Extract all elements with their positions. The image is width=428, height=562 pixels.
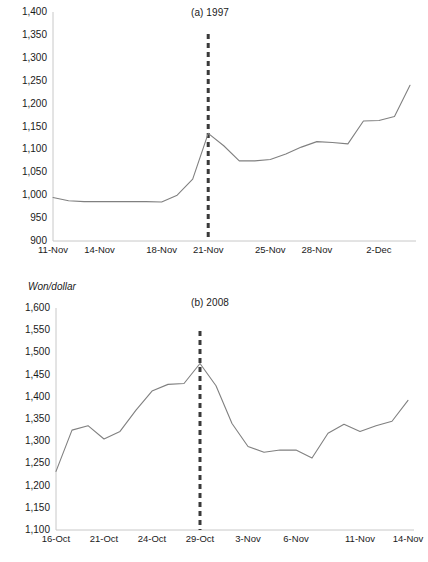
chart-panel-1997: (a) 1997 1,4001,3501,3001,2501,2001,1501…: [0, 0, 420, 282]
y-axis-tick-label: 1,050: [3, 167, 47, 177]
x-axis-tick-label: 2-Dec: [349, 245, 409, 255]
y-axis-tick-label: 1,200: [6, 481, 50, 491]
y-axis-tick-label: 1,400: [3, 7, 47, 17]
y-axis-tick-label: 1,400: [6, 392, 50, 402]
plot-area-1997: [0, 0, 420, 282]
y-axis-tick-label: 1,550: [6, 325, 50, 335]
y-axis-tick-label: 1,000: [3, 190, 47, 200]
y-axis-tick-label: 1,250: [3, 76, 47, 86]
data-series-line: [56, 364, 408, 472]
y-axis-tick-label: 950: [3, 213, 47, 223]
y-axis-tick-label: 1,350: [3, 30, 47, 40]
x-axis-tick-label: 6-Nov: [266, 534, 326, 544]
y-axis-tick-label: 1,100: [3, 144, 47, 154]
x-axis-tick-label: 14-Nov: [70, 245, 130, 255]
y-axis-tick-label: 1,250: [6, 458, 50, 468]
y-axis-tick-label: 1,300: [6, 436, 50, 446]
y-axis-tick-label: 1,450: [6, 370, 50, 380]
y-axis-tick-label: 1,500: [6, 347, 50, 357]
plot-area-2008: [0, 280, 420, 562]
x-axis-tick-label: 28-Nov: [287, 245, 347, 255]
y-axis-tick-label: 1,150: [3, 122, 47, 132]
data-series-line: [53, 85, 410, 202]
x-axis-tick-label: 21-Nov: [178, 245, 238, 255]
y-axis-tick-label: 1,350: [6, 414, 50, 424]
y-axis-tick-label: 1,600: [6, 303, 50, 313]
x-axis-tick-label: 14-Nov: [378, 534, 428, 544]
y-axis-tick-label: 1,150: [6, 503, 50, 513]
y-axis-tick-label: 1,300: [3, 53, 47, 63]
chart-panel-2008: Won/dollar (b) 2008 1,6001,5501,5001,450…: [0, 280, 420, 562]
y-axis-tick-label: 1,200: [3, 99, 47, 109]
